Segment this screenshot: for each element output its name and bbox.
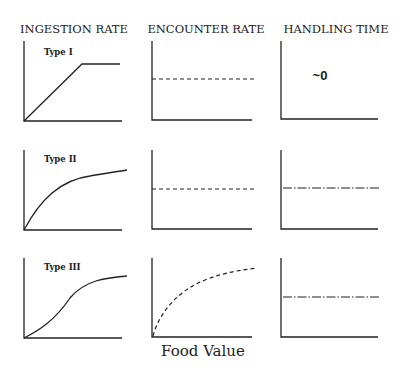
ingestion-curve (24, 170, 127, 230)
axes (24, 41, 122, 121)
panel-type2-ingestion: Type II (24, 150, 127, 230)
column-header-handling-time: HANDLING TIME (283, 22, 388, 36)
axes (152, 41, 252, 120)
panel-type1-ingestion: Type I (24, 41, 122, 121)
type-label: Type II (44, 154, 77, 164)
panel-type2-handling (281, 150, 379, 229)
x-axis-label: Food Value (161, 342, 245, 360)
handling-annotation: ~0 (313, 68, 328, 83)
encounter-curve (153, 268, 257, 336)
type-label: Type I (44, 47, 73, 57)
column-header-encounter-rate: ENCOUNTER RATE (147, 22, 264, 36)
ingestion-curve (24, 276, 127, 338)
axes (281, 150, 378, 229)
panel-type3-encounter (152, 258, 257, 337)
axes (152, 258, 252, 337)
panel-type3-ingestion: Type III (24, 258, 127, 338)
functional-response-diagram: INGESTION RATE ENCOUNTER RATE HANDLING T… (0, 0, 402, 378)
panel-type1-handling: ~0 (281, 41, 378, 119)
panel-type2-encounter (152, 150, 254, 229)
axes (281, 41, 378, 119)
type-label: Type III (44, 262, 81, 272)
panel-type3-handling (281, 258, 379, 337)
panel-type1-encounter (152, 41, 254, 120)
ingestion-curve (24, 64, 120, 121)
column-header-ingestion-rate: INGESTION RATE (20, 22, 128, 36)
